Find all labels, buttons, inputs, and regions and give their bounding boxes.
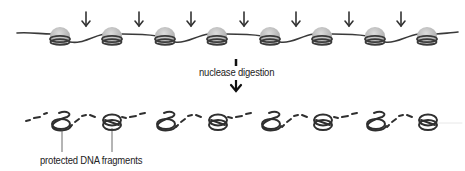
down-arrow-icon: [397, 12, 405, 26]
down-arrow-icon: [187, 12, 195, 26]
nucleosome: [102, 27, 122, 45]
digested-dna: [26, 112, 462, 131]
protected-fragment: [419, 115, 437, 131]
callout-lines: [62, 128, 112, 152]
protected-fragment: [367, 112, 386, 131]
nucleosome: [312, 27, 332, 45]
nucleosome: [365, 27, 385, 45]
nucleosome: [207, 27, 227, 45]
nucleosome: [417, 27, 437, 45]
protected-fragment: [103, 115, 121, 131]
down-arrow-icon: [240, 12, 248, 26]
protected-fragment: [262, 112, 281, 131]
protected-fragment: [209, 115, 227, 131]
linker-dna: [17, 32, 458, 42]
nucleosome: [260, 27, 280, 45]
protected-fragment: [157, 112, 176, 131]
nucleosome: [155, 27, 175, 45]
fragments-label: protected DNA fragments: [40, 154, 142, 166]
chromatin-fiber: [17, 27, 458, 45]
cut-site-arrows: [82, 12, 405, 26]
nucleosome: [50, 27, 70, 45]
protected-fragment: [314, 115, 332, 131]
down-arrow-icon: [345, 12, 353, 26]
down-arrow-icon: [292, 12, 300, 26]
nuclease-digestion-diagram: [0, 0, 465, 171]
protected-fragment: [52, 112, 71, 131]
down-arrow-icon: [82, 12, 90, 26]
down-arrow-icon: [135, 12, 143, 26]
process-label: nuclease digestion: [199, 66, 274, 78]
